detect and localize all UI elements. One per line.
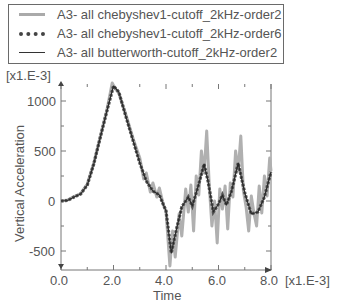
x-axis-title: Time bbox=[153, 288, 181, 303]
y-axis-multiplier: [x1.E-3] bbox=[6, 68, 51, 83]
y-tick-label: 1000 bbox=[27, 94, 56, 109]
x-tick-label: 0.0 bbox=[50, 273, 68, 288]
x-tick-label: 8.0 bbox=[260, 273, 278, 288]
x-tick-label: 6.0 bbox=[208, 273, 226, 288]
y-tick-label: 500 bbox=[34, 144, 56, 159]
x-tick-label: 4.0 bbox=[155, 273, 173, 288]
y-axis-arrow-icon bbox=[58, 264, 64, 269]
y-axis-arrow-icon bbox=[58, 81, 64, 86]
data-series bbox=[61, 83, 271, 266]
y-tick-label: 0 bbox=[48, 194, 55, 209]
x-tick-label: 2.0 bbox=[103, 273, 121, 288]
x-axis-multiplier: [x1.E-3] bbox=[285, 273, 330, 288]
y-tick-label: -500 bbox=[29, 244, 55, 259]
y-axis-title: Vertical Acceleration bbox=[12, 109, 27, 259]
